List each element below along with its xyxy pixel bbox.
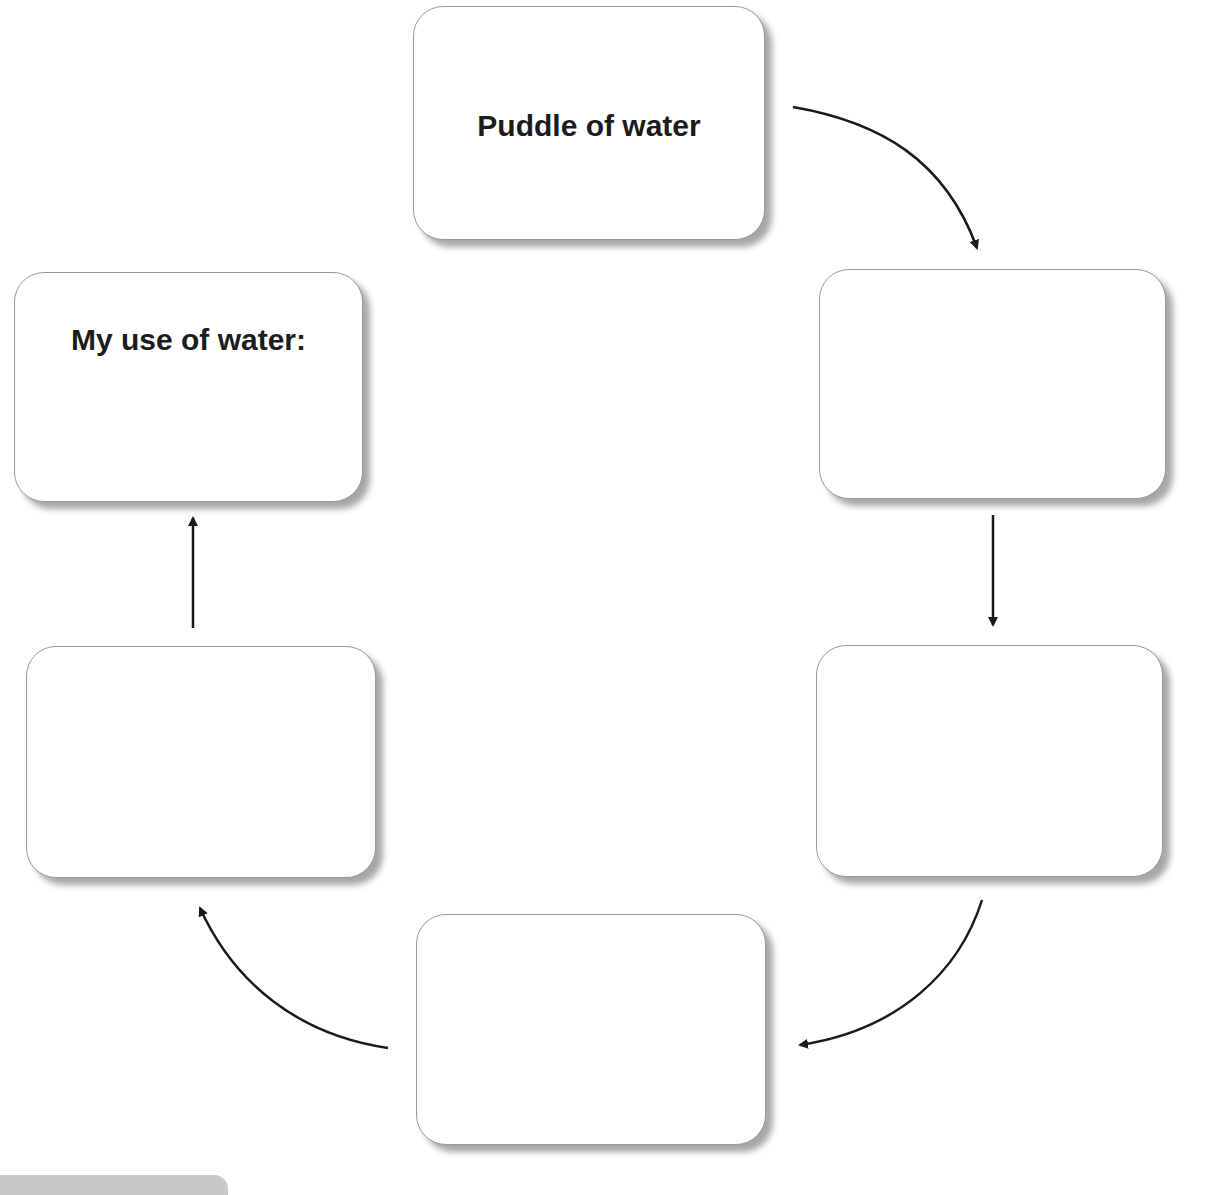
arrow-3-to-4 — [800, 900, 982, 1045]
arrow-4-to-5 — [200, 908, 388, 1048]
page-footer-tab — [0, 1175, 228, 1195]
arrow-1-to-2 — [793, 107, 977, 248]
